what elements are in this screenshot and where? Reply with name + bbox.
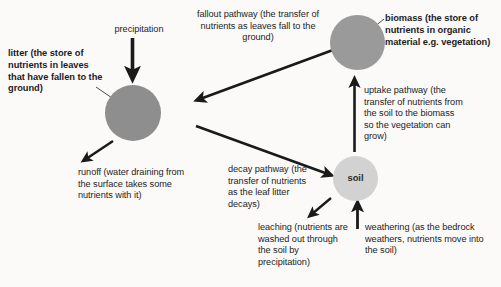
flow-label-fallout-pathway: fallout pathway (the transfer of nutrien… — [184, 9, 332, 44]
flow-label-precipitation: precipitation — [99, 24, 179, 36]
flow-label-decay-pathway: decay pathway (the transfer of nutrients… — [228, 164, 312, 210]
store-circle-biomass[interactable] — [330, 15, 385, 70]
arrow-runoff — [86, 141, 113, 159]
arrow-leaching — [312, 198, 331, 214]
store-label-litter: litter (the store of nutrients in leaves… — [8, 48, 108, 95]
store-label-biomass: biomass (the store of nutrients in organ… — [385, 13, 497, 48]
flow-label-uptake-pathway: uptake pathway (the transfer of nutrient… — [364, 85, 464, 143]
arrow-fallout — [200, 50, 333, 99]
flow-label-runoff: runoff (water draining from the surface … — [78, 167, 188, 202]
store-circle-litter[interactable] — [105, 85, 161, 141]
flow-label-weathering: weathering (as the bedrock weathers, nut… — [365, 222, 490, 257]
store-label-soil: soil — [333, 172, 378, 183]
flow-label-leaching: leaching (nutrients are washed out throu… — [258, 222, 350, 268]
nutrient-cycle-diagram: soil litter (the store of nutrients in l… — [0, 0, 501, 287]
